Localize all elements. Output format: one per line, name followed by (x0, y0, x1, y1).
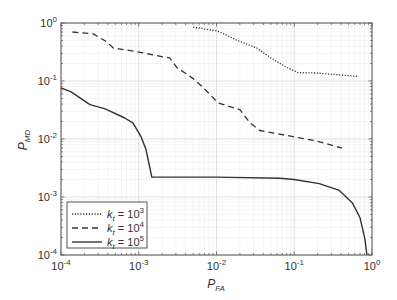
x-tick-label: 100 (364, 258, 381, 272)
x-axis-label: PFA (207, 277, 225, 293)
y-axis-label: PMD (16, 130, 32, 151)
y-tick-label: 10-2 (38, 131, 58, 145)
y-tick-label: 10-3 (38, 189, 58, 203)
legend: kt = 103kt = 104kt = 105 (67, 202, 147, 251)
roc-chart: 10-410-310-210-1100 10-410-310-210-1100 … (0, 0, 397, 300)
x-tick-label: 10-1 (285, 258, 305, 272)
x-tick-label: 10-4 (51, 258, 71, 272)
x-tick-label: 10-3 (129, 258, 149, 272)
y-tick-labels: 10-410-310-210-1100 (38, 15, 58, 261)
x-tick-labels: 10-410-310-210-1100 (51, 258, 381, 272)
x-tick-label: 10-2 (207, 258, 227, 272)
y-tick-label: 10-4 (38, 247, 58, 261)
y-tick-label: 10-1 (38, 73, 58, 87)
y-tick-label: 100 (40, 15, 57, 29)
